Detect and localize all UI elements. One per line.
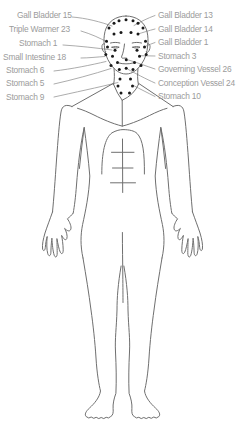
- label-gall-bladder-13: Gall Bladder 13: [158, 11, 213, 20]
- groin-line: [122, 233, 123, 303]
- leg-right: [124, 258, 162, 419]
- neck-right: [138, 69, 139, 85]
- acupoint-dot: [105, 40, 108, 43]
- side-left: [81, 128, 90, 259]
- leader-line-small-intestine-18: [81, 57, 105, 59]
- clavicle-left: [78, 108, 122, 126]
- right-eyebrow: [132, 42, 141, 43]
- acupoint-dot: [131, 85, 134, 88]
- acupoint-dot: [142, 27, 145, 30]
- acupoint-dot: [129, 78, 132, 81]
- label-triple-warmer-23: Triple Warmer 23: [9, 25, 70, 34]
- leader-line-gall-bladder-15: [72, 17, 112, 26]
- acupoint-dot: [114, 49, 117, 52]
- acupoint-dot: [111, 55, 114, 58]
- hand-right: [172, 212, 203, 257]
- side-right: [155, 128, 164, 259]
- neck-left: [114, 69, 115, 85]
- acupoint-dot: [125, 58, 128, 61]
- label-governing-vessel-26: Governing Vessel 26: [158, 65, 231, 74]
- acupoint-dot: [138, 55, 141, 58]
- leader-line-stomach-5: [54, 69, 111, 85]
- acupoint-dot: [132, 68, 135, 71]
- right-eye: [133, 47, 140, 48]
- label-stomach-6: Stomach 6: [6, 66, 44, 75]
- acupoint-dot: [130, 31, 133, 34]
- shoulder-arm-right: [173, 105, 193, 212]
- acupoint-dot: [132, 19, 135, 22]
- acupoint-dot: [120, 31, 123, 34]
- mouth: [119, 63, 133, 64]
- label-small-intestine-18: Small Intestine 18: [3, 53, 66, 62]
- acupoint-dot: [104, 53, 107, 56]
- label-stomach-10: Stomach 10: [158, 92, 201, 101]
- acupoint-dot: [120, 92, 123, 95]
- label-stomach-5: Stomach 5: [6, 79, 44, 88]
- shoulder-arm-left: [53, 105, 73, 212]
- hand-left: [42, 212, 73, 257]
- body-outline: [42, 16, 202, 419]
- acupoint-dot: [113, 22, 116, 25]
- trapezius-left: [72, 84, 113, 107]
- label-gall-bladder-15: Gall Bladder 15: [17, 11, 72, 20]
- label-conception-vessel-24: Conception Vessel 24: [158, 79, 235, 88]
- acupoint-dot: [106, 46, 109, 49]
- acupoint-dot: [128, 92, 131, 95]
- acupoint-dot: [119, 78, 122, 81]
- acupoint-dot: [110, 64, 113, 67]
- acupressure-diagram: Gall Bladder 15 Triple Warmer 23 Stomach…: [0, 0, 245, 428]
- acupoint-dot: [117, 85, 120, 88]
- left-eye: [112, 47, 119, 48]
- acupoint-dot: [145, 53, 148, 56]
- acupoint-dots: [104, 18, 147, 94]
- label-gall-bladder-14: Gall Bladder 14: [158, 25, 213, 34]
- acupoint-dot: [118, 68, 121, 71]
- acupoint-dot: [144, 40, 147, 43]
- acupoint-dot: [116, 61, 119, 64]
- acupoint-dot: [143, 46, 146, 49]
- acupoint-dot: [113, 33, 116, 36]
- acupoint-dot: [118, 19, 121, 22]
- acupoint-dot: [125, 67, 128, 70]
- label-stomach-1: Stomach 1: [19, 39, 57, 48]
- leader-line-stomach-9: [54, 83, 118, 98]
- leg-left: [83, 258, 121, 419]
- acupoint-dot: [136, 49, 139, 52]
- acupoint-dot: [137, 22, 140, 25]
- acupoint-dot: [125, 18, 128, 21]
- leader-line-stomach-6: [54, 62, 106, 72]
- left-eyebrow: [111, 42, 120, 43]
- nose: [122, 44, 127, 58]
- label-gall-bladder-1: Gall Bladder 1: [158, 38, 208, 47]
- acupoint-dot: [140, 64, 143, 67]
- label-stomach-3: Stomach 3: [158, 52, 196, 61]
- acupoint-dot: [133, 61, 136, 64]
- acupoint-dot: [137, 33, 140, 36]
- label-stomach-9: Stomach 9: [6, 93, 44, 102]
- leader-line-triple-warmer-23: [81, 31, 107, 42]
- acupoint-dot: [108, 27, 111, 30]
- clavicle-right: [123, 108, 167, 126]
- leader-line-conception-vessel-24: [128, 69, 155, 83]
